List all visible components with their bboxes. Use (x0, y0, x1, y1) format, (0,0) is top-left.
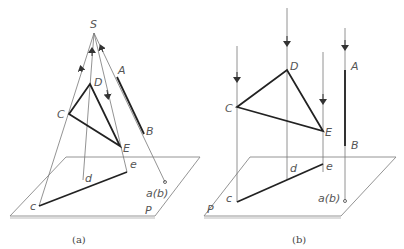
label-c: c (30, 200, 36, 213)
label-c-b: c (226, 192, 232, 205)
label-e-b: e (326, 160, 333, 173)
panel-a-central-projection: S D C E A B c d e a(b) P (a) (10, 18, 200, 245)
triangle-cde-a (69, 84, 120, 146)
caption-a: (a) (72, 234, 86, 245)
projection-plane-b (204, 157, 396, 216)
label-plane-P-b: P (207, 203, 214, 216)
label-ab-b: a(b) (318, 192, 340, 205)
label-A-b: A (350, 60, 359, 73)
triangle-cde-b (237, 70, 323, 131)
label-S: S (90, 18, 97, 31)
label-D: D (94, 76, 102, 89)
label-E: E (123, 142, 130, 155)
label-C: C (57, 108, 65, 121)
label-d-b: d (290, 162, 298, 175)
panel-b-parallel-projection: D C E A B c d e a(b) P (b) (204, 8, 396, 245)
caption-b: (b) (292, 234, 306, 245)
label-C-b: C (225, 102, 233, 115)
label-A: A (117, 64, 126, 77)
label-E-b: E (325, 126, 332, 139)
label-d: d (85, 172, 93, 185)
projection-diagram: S D C E A B c d e a(b) P (a) D C E A B (0, 0, 404, 249)
label-e: e (130, 158, 137, 171)
label-plane-P: P (145, 204, 152, 217)
projection-plane-a (10, 157, 200, 216)
segment-ab-a (117, 77, 144, 134)
label-D-b: D (290, 60, 298, 73)
label-ab: a(b) (146, 187, 168, 200)
projection-ce-b (237, 164, 323, 202)
label-B-b: B (351, 139, 359, 152)
label-B: B (146, 125, 154, 138)
